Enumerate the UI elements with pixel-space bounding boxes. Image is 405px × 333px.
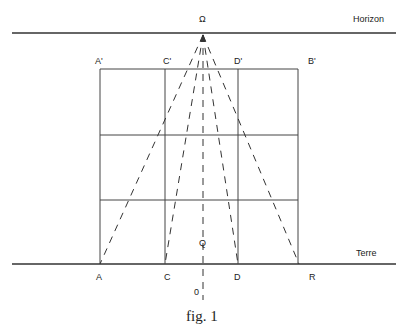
label-a: A: [96, 272, 102, 282]
label-d: D: [234, 272, 241, 282]
label-o: 0: [194, 287, 199, 297]
perspective-diagram: Ω Horizon Terre A' C' D' B' A C D R Q 0 …: [0, 0, 405, 333]
label-a-prime: A': [95, 56, 103, 66]
label-c-prime: C': [163, 56, 171, 66]
label-d-prime: D': [234, 56, 242, 66]
figure-caption: fig. 1: [186, 308, 218, 324]
vanishing-point-arrow: [200, 34, 206, 42]
label-omega: Ω: [199, 14, 206, 24]
label-c: C: [164, 272, 171, 282]
grid: [100, 69, 298, 264]
vanishing-rays: [100, 35, 299, 300]
label-q: Q: [199, 238, 206, 248]
label-b-prime: B': [308, 56, 316, 66]
label-horizon: Horizon: [353, 14, 384, 24]
label-r: R: [309, 272, 316, 282]
label-terre: Terre: [356, 248, 377, 258]
